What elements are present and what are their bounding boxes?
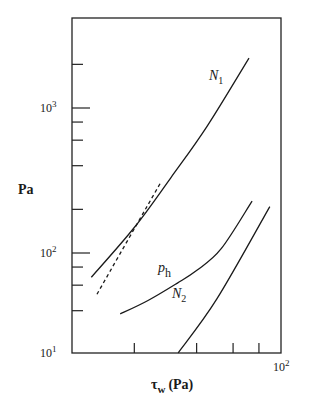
label-n2: N2 (171, 286, 186, 304)
label-n1: N1 (208, 68, 223, 86)
chart-figure: 101102103 102 Pa τw(Pa) N1 ph N2 (0, 0, 309, 413)
y-tick-label: 101 (40, 344, 57, 360)
x-axis-label: τw(Pa) (151, 377, 194, 395)
label-ph: ph (157, 260, 171, 280)
series-line-n1 (91, 58, 249, 277)
x-tick-label: 102 (273, 358, 290, 374)
series-line-n2 (178, 207, 270, 353)
x-axis-ticks (134, 343, 259, 353)
y-axis-label: Pa (18, 182, 34, 197)
y-tick-label: 103 (40, 99, 57, 115)
plot-frame (72, 18, 281, 353)
series-line-n1-dashed (97, 182, 161, 294)
data-series (91, 58, 269, 353)
y-axis-ticks (72, 64, 90, 310)
curve-labels: N1 ph N2 (157, 68, 223, 304)
y-tick-labels: 101102103 (40, 99, 57, 360)
x-tick-labels: 102 (273, 358, 290, 374)
y-tick-label: 102 (40, 244, 57, 260)
